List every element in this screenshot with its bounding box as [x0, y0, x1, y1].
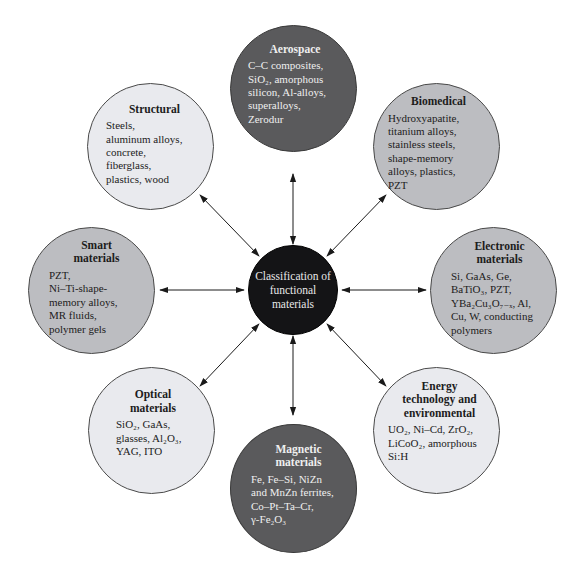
node-body: Si, GaAs, Ge, BaTiO₃, PZT, YBa₂Cu₃O₇₋ₓ, … [451, 270, 548, 337]
node-aerospace: Aerospace C–C composites, SiO₂, amorphou… [230, 25, 357, 152]
arrow-structural [200, 195, 259, 256]
node-body: Hydroxyapatite, titanium alloys, stainle… [388, 112, 489, 192]
node-body: UO₂, Ni–Cd, ZrO₂, LiCoO₂, amorphous Si:H [388, 423, 491, 463]
arrow-biomedical [327, 195, 386, 256]
node-biomedical: Biomedical Hydroxyapatite, titanium allo… [373, 83, 500, 210]
node-electronic-materials: Electronic materials Si, GaAs, Ge, BaTiO… [430, 227, 557, 354]
node-magnetic-materials: Magnetic materials Fe, Fe–Si, NiZn and M… [230, 424, 357, 553]
node-title: Aerospace [248, 43, 342, 57]
arrow-energy [327, 324, 386, 386]
arrow-optical [200, 324, 259, 386]
node-title: Energy technology and environmental [388, 380, 491, 421]
center-node-classification: Classification of functional materials [248, 245, 338, 335]
node-smart-materials: Smart materials PZT, Ni–Ti-shape- memory… [28, 227, 155, 354]
node-body: SiO₂, GaAs, glasses, Al₂O₃, YAG, ITO [116, 418, 204, 458]
node-title: Magnetic materials [251, 443, 346, 470]
node-optical-materials: Optical materials SiO₂, GaAs, glasses, A… [88, 367, 215, 494]
node-structural: Structural Steels, aluminum alloys, conc… [87, 83, 214, 210]
node-body: C–C composites, SiO₂, amorphous silicon,… [248, 59, 342, 126]
center-label-line-2: functional [270, 283, 317, 297]
node-title: Smart materials [49, 239, 144, 266]
node-body: Steels, aluminum alloys, concrete, fiber… [106, 119, 203, 186]
center-label-line-3: materials [272, 297, 314, 311]
node-body: PZT, Ni–Ti-shape- memory alloys, MR flui… [49, 269, 144, 336]
node-energy-environmental: Energy technology and environmental UO₂,… [373, 367, 500, 494]
node-body: Fe, Fe–Si, NiZn and MnZn ferrites, Co–Pt… [251, 473, 346, 527]
node-title: Structural [106, 103, 203, 117]
node-title: Optical materials [102, 388, 204, 415]
node-title: Biomedical [388, 95, 489, 109]
center-label-line-1: Classification of [255, 269, 331, 283]
node-title: Electronic materials [451, 240, 548, 267]
